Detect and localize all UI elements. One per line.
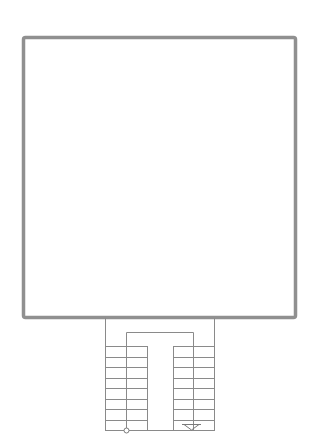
- stair-start-marker-icon: [124, 428, 129, 433]
- room-outline: [24, 38, 296, 318]
- down-arrow-icon: [182, 425, 201, 431]
- staircase: [105, 318, 215, 431]
- floor-plan: [0, 0, 313, 442]
